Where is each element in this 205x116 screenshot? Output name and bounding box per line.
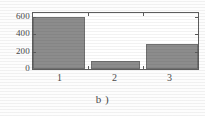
x-axis: 123	[32, 72, 199, 88]
y-tick-mark	[33, 69, 36, 70]
x-tick-mark-top	[143, 13, 144, 16]
y-tick-label: 200	[2, 46, 30, 55]
y-tick-mark-right	[195, 17, 198, 18]
figure: 0200400600 123 b )	[0, 0, 205, 116]
y-tick-mark	[33, 34, 36, 35]
bar	[91, 61, 139, 69]
bar	[33, 17, 85, 70]
y-tick-mark	[33, 17, 36, 18]
y-tick-mark-right	[195, 52, 198, 53]
y-tick-mark-right	[195, 34, 198, 35]
y-tick-mark	[33, 52, 36, 53]
plot-frame	[32, 12, 199, 70]
x-tick-mark	[88, 66, 89, 69]
x-tick-mark	[143, 66, 144, 69]
y-tick-label: 600	[2, 11, 30, 20]
figure-caption: b )	[0, 93, 205, 105]
x-tick-label: 1	[57, 72, 62, 84]
x-tick-label: 2	[112, 72, 117, 84]
bar	[146, 44, 198, 69]
y-tick-mark-right	[195, 69, 198, 70]
plot-area	[33, 13, 198, 69]
y-tick-label: 0	[2, 64, 30, 73]
x-tick-mark-top	[88, 13, 89, 16]
x-tick-label: 3	[167, 72, 172, 84]
y-axis: 0200400600	[0, 12, 30, 70]
y-tick-label: 400	[2, 29, 30, 38]
